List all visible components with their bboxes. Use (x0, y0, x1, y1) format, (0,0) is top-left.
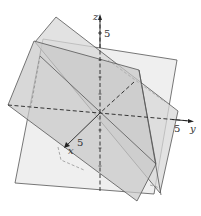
x-tick-label: 5 (77, 137, 83, 148)
three-planes-figure: z 5 5 y 5 x (0, 0, 201, 216)
x-axis-label: x (68, 145, 74, 156)
z-arrow-icon (98, 14, 102, 20)
y-tick-label: 5 (174, 123, 180, 134)
z-tick-label: 5 (104, 28, 110, 39)
z-axis-label: z (92, 11, 99, 22)
y-axis-label: y (189, 123, 196, 134)
